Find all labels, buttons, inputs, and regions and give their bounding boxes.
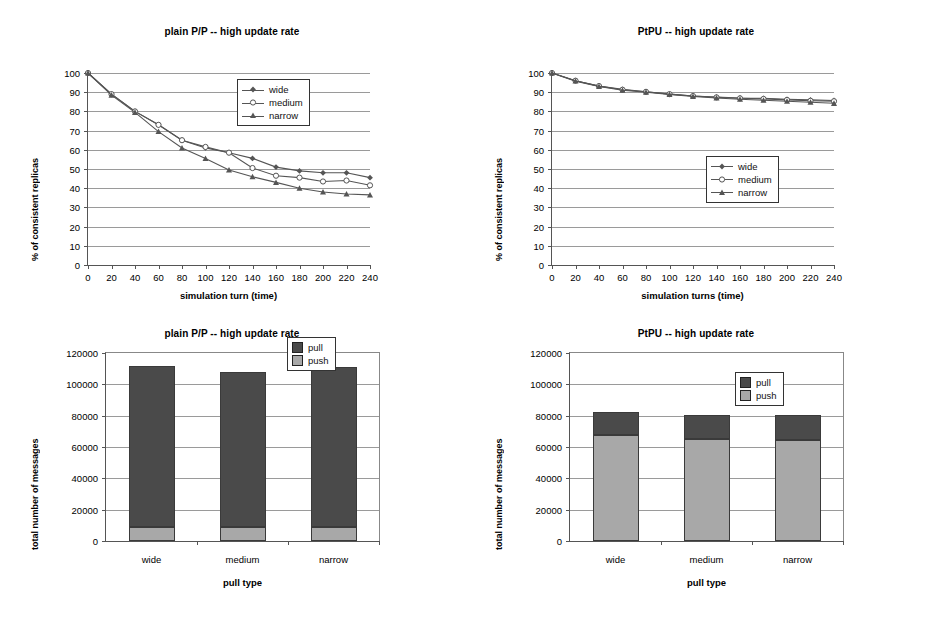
legend-swatch-pull bbox=[740, 377, 751, 388]
y-tick-mark bbox=[102, 541, 106, 542]
bar-segment-push bbox=[775, 440, 821, 541]
y-tick-label: 20000 bbox=[38, 504, 98, 515]
x-tick-mark bbox=[276, 265, 277, 269]
y-tick-label: 80000 bbox=[38, 410, 98, 421]
y-tick-label: 70 bbox=[504, 125, 544, 136]
series-marker bbox=[719, 163, 725, 169]
y-tick-mark bbox=[102, 384, 106, 385]
y-tick-mark bbox=[566, 510, 570, 511]
legend-swatch-push bbox=[292, 355, 303, 366]
x-tick-mark bbox=[300, 265, 301, 269]
x-tick-mark bbox=[811, 265, 812, 269]
panel-title: PtPU -- high update rate bbox=[464, 26, 928, 37]
series-marker bbox=[367, 175, 373, 181]
legend-marker-icon bbox=[242, 84, 264, 95]
category-label-wide: wide bbox=[107, 554, 197, 565]
category-label-narrow: narrow bbox=[289, 554, 379, 565]
legend-label: pull bbox=[308, 341, 323, 354]
y-tick-label: 10 bbox=[40, 240, 80, 251]
series-marker bbox=[156, 122, 161, 127]
x-tick-mark bbox=[661, 541, 662, 545]
y-tick-mark bbox=[566, 384, 570, 385]
x-tick-mark bbox=[182, 265, 183, 269]
x-tick-mark bbox=[693, 265, 694, 269]
series-marker bbox=[273, 164, 279, 170]
x-tick-mark bbox=[576, 265, 577, 269]
series-marker bbox=[203, 155, 209, 161]
series-line-narrow bbox=[88, 73, 370, 195]
y-axis-label: % of consistent replicas bbox=[30, 86, 40, 261]
series-marker bbox=[344, 178, 349, 183]
y-tick-label: 50 bbox=[504, 164, 544, 175]
x-tick-mark bbox=[552, 265, 553, 269]
series-line-wide bbox=[88, 73, 370, 178]
x-tick-mark bbox=[764, 265, 765, 269]
series-marker bbox=[179, 145, 185, 151]
y-tick-label: 20000 bbox=[502, 504, 562, 515]
legend-label: medium bbox=[738, 173, 772, 186]
figure-grid: plain P/P -- high update rate % of consi… bbox=[0, 0, 928, 629]
x-tick-mark bbox=[370, 265, 371, 269]
legend-label: wide bbox=[269, 83, 289, 96]
panel-line-ptpu: PtPU -- high update rate % of consistent… bbox=[464, 0, 928, 315]
x-tick-mark bbox=[288, 541, 289, 545]
series-marker bbox=[320, 170, 326, 176]
y-axis-label: % of consistent replicas bbox=[494, 86, 504, 261]
panel-title: plain P/P -- high update rate bbox=[0, 328, 464, 339]
bar-segment-pull bbox=[129, 366, 175, 528]
x-axis-label: simulation turn (time) bbox=[87, 290, 370, 301]
bar-segment-pull bbox=[684, 415, 730, 439]
series-marker bbox=[297, 175, 302, 180]
y-tick-mark bbox=[102, 416, 106, 417]
x-axis-label: simulation turns (time) bbox=[551, 290, 834, 301]
bar-stack bbox=[129, 353, 175, 541]
bar-stack bbox=[311, 353, 357, 541]
plot-area: 020000400006000080000100000120000widemed… bbox=[105, 352, 380, 542]
y-tick-label: 120000 bbox=[502, 348, 562, 359]
x-tick-mark bbox=[88, 265, 89, 269]
series-marker bbox=[203, 144, 208, 149]
x-tick-mark bbox=[135, 265, 136, 269]
chart-legend: pullpush bbox=[735, 372, 784, 406]
series-marker bbox=[250, 87, 256, 93]
legend-marker-icon bbox=[242, 110, 264, 121]
x-tick-mark bbox=[599, 265, 600, 269]
y-tick-label: 100 bbox=[504, 68, 544, 79]
y-tick-mark bbox=[102, 510, 106, 511]
chart-legend: widemediumnarrow bbox=[706, 156, 779, 203]
x-axis-label: pull type bbox=[569, 577, 844, 588]
plot-area: 0102030405060708090100020406080100120140… bbox=[87, 73, 370, 266]
legend-item-medium: medium bbox=[242, 96, 303, 109]
y-tick-label: 60 bbox=[504, 144, 544, 155]
x-tick-mark bbox=[717, 265, 718, 269]
bar-segment-push bbox=[220, 527, 266, 541]
x-tick-mark bbox=[197, 541, 198, 545]
category-label-wide: wide bbox=[571, 554, 661, 565]
y-tick-label: 40000 bbox=[502, 473, 562, 484]
x-tick-mark bbox=[752, 541, 753, 545]
category-label-medium: medium bbox=[198, 554, 288, 565]
y-tick-label: 80 bbox=[40, 106, 80, 117]
x-tick-mark bbox=[112, 265, 113, 269]
legend-item-push: push bbox=[292, 354, 329, 367]
x-tick-mark bbox=[623, 265, 624, 269]
panel-line-plain-pp: plain P/P -- high update rate % of consi… bbox=[0, 0, 464, 315]
series-marker bbox=[344, 170, 350, 176]
y-tick-mark bbox=[566, 353, 570, 354]
panel-bar-plain-pp: plain P/P -- high update rate total numb… bbox=[0, 315, 464, 629]
panel-title: plain P/P -- high update rate bbox=[0, 26, 464, 37]
panel-bar-ptpu: PtPU -- high update rate total number of… bbox=[464, 315, 928, 629]
bar-stack bbox=[684, 353, 730, 541]
bar-stack bbox=[220, 353, 266, 541]
y-tick-label: 40 bbox=[40, 183, 80, 194]
x-tick-mark bbox=[834, 265, 835, 269]
y-tick-label: 50 bbox=[40, 164, 80, 175]
series-layer bbox=[552, 73, 834, 265]
y-tick-label: 0 bbox=[502, 536, 562, 547]
x-axis-label: pull type bbox=[105, 577, 380, 588]
series-marker bbox=[273, 173, 278, 178]
y-tick-mark bbox=[566, 541, 570, 542]
y-tick-mark bbox=[102, 353, 106, 354]
y-tick-label: 60 bbox=[40, 144, 80, 155]
y-tick-label: 70 bbox=[40, 125, 80, 136]
